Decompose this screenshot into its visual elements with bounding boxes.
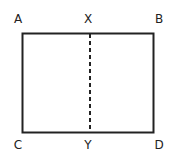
label-d: D	[154, 139, 163, 151]
label-b: B	[155, 13, 163, 25]
label-y: Y	[84, 139, 91, 151]
rectangle-outline	[23, 34, 154, 133]
label-c: C	[14, 139, 22, 151]
label-a: A	[14, 13, 22, 25]
label-x: X	[84, 13, 92, 25]
